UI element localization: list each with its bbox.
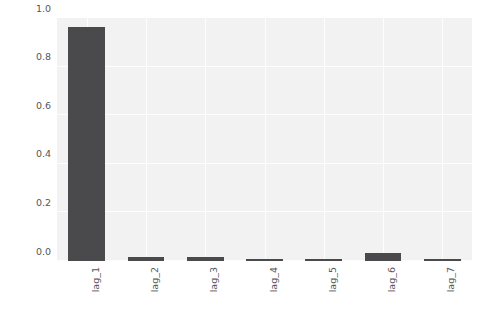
x-tick-label: lag_6 bbox=[387, 267, 397, 292]
x-tick-label-text: lag_6 bbox=[387, 267, 397, 292]
gridline-x bbox=[442, 18, 443, 261]
bar-lag_3 bbox=[187, 257, 224, 261]
gridline-x bbox=[383, 18, 384, 261]
bar-lag_5 bbox=[305, 259, 342, 262]
x-tick-label: lag_7 bbox=[446, 267, 456, 292]
y-axis-tick-labels: 0.00.20.40.60.81.0 bbox=[0, 18, 51, 261]
y-tick-label: 0.4 bbox=[3, 150, 51, 160]
bar-lag_1 bbox=[68, 27, 105, 261]
x-tick-label-text: lag_7 bbox=[446, 267, 456, 292]
x-tick-label: lag_2 bbox=[150, 267, 160, 292]
bar-chart-figure: 0.00.20.40.60.81.0 lag_1lag_2lag_3lag_4l… bbox=[0, 0, 487, 319]
x-tick-label-text: lag_4 bbox=[269, 267, 279, 292]
bar-lag_4 bbox=[246, 259, 283, 262]
bar-lag_7 bbox=[424, 259, 461, 262]
x-tick-label-text: lag_2 bbox=[150, 267, 160, 292]
y-tick-label: 0.0 bbox=[3, 247, 51, 257]
y-tick-label: 0.2 bbox=[3, 198, 51, 208]
y-tick-label: 0.8 bbox=[3, 52, 51, 62]
bar-lag_2 bbox=[128, 257, 165, 261]
x-tick-label: lag_1 bbox=[91, 267, 101, 292]
gridline-x bbox=[205, 18, 206, 261]
y-tick-label: 1.0 bbox=[3, 4, 51, 14]
x-tick-label-text: lag_3 bbox=[209, 267, 219, 292]
x-tick-label-text: lag_5 bbox=[328, 267, 338, 292]
gridline-x bbox=[324, 18, 325, 261]
y-tick-label: 0.6 bbox=[3, 101, 51, 111]
x-tick-label: lag_3 bbox=[209, 267, 219, 292]
x-tick-label: lag_4 bbox=[269, 267, 279, 292]
x-tick-label: lag_5 bbox=[328, 267, 338, 292]
gridline-x bbox=[265, 18, 266, 261]
bar-lag_6 bbox=[365, 253, 402, 261]
x-axis-tick-labels: lag_1lag_2lag_3lag_4lag_5lag_6lag_7 bbox=[57, 263, 472, 319]
x-tick-label-text: lag_1 bbox=[91, 267, 101, 292]
plot-area bbox=[57, 18, 472, 261]
gridline-x bbox=[146, 18, 147, 261]
